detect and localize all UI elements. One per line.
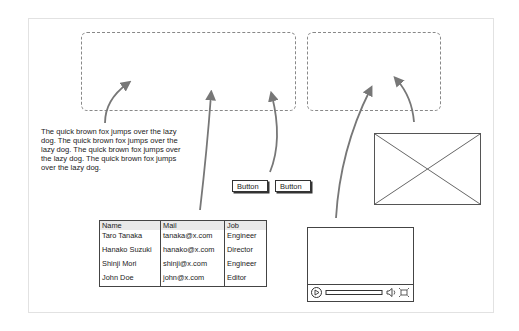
arrow-video-to-right-zone bbox=[336, 90, 370, 218]
arrow-table-to-left-zone bbox=[200, 95, 211, 210]
arrow-layer bbox=[0, 0, 519, 331]
arrow-image-to-right-zone bbox=[397, 80, 414, 122]
arrow-button-to-left-zone bbox=[270, 96, 277, 172]
arrow-paragraph-to-left-zone bbox=[105, 84, 127, 123]
